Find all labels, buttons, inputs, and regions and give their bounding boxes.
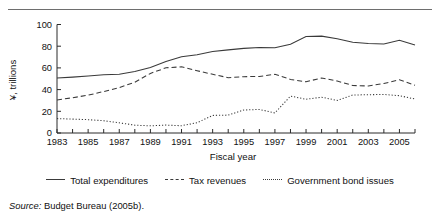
legend-item-government-bond-issues: Government bond issues: [263, 175, 394, 186]
x-tick-label: 1987: [109, 137, 130, 147]
y-tick-label: 40: [42, 85, 52, 95]
x-tick-label: 1993: [202, 137, 223, 147]
series-line-total-expenditures: [57, 36, 415, 78]
x-axis-tick-labels: 1983198519871989199119931995199719992001…: [47, 137, 410, 147]
series-line-government-bond-issues: [57, 94, 415, 125]
x-tick-label: 1989: [140, 137, 161, 147]
x-axis-title: Fiscal year: [210, 151, 257, 162]
figure-container: 020406080100 198319851987198919911993199…: [0, 0, 440, 223]
x-tick-label: 1997: [265, 137, 286, 147]
axis-group: 020406080100 198319851987198919911993199…: [36, 20, 415, 147]
y-tick-label: 100: [36, 20, 52, 30]
line-chart-svg: 020406080100 198319851987198919911993199…: [0, 0, 440, 170]
legend-label-tax-revenues: Tax revenues: [189, 175, 246, 186]
legend-label-government-bond-issues: Government bond issues: [287, 175, 394, 186]
legend-swatch-dashed-icon: [165, 179, 184, 182]
x-tick-label: 2003: [358, 137, 379, 147]
legend-item-tax-revenues: Tax revenues: [165, 175, 246, 186]
legend-swatch-dotted-icon: [263, 179, 282, 182]
x-tick-label: 1995: [233, 137, 254, 147]
data-series-group: [57, 36, 415, 126]
x-tick-label: 2001: [327, 137, 348, 147]
y-axis-tick-labels: 020406080100: [36, 20, 52, 138]
y-axis-title: ¥, trillions: [7, 60, 18, 102]
x-axis-ticks: [57, 129, 415, 133]
legend-swatch-solid-icon: [46, 179, 65, 182]
source-label: Source:: [9, 200, 41, 211]
y-axis-ticks: [57, 25, 61, 134]
y-tick-label: 60: [42, 63, 52, 73]
legend-label-total-expenditures: Total expenditures: [70, 175, 148, 186]
source-value: Budget Bureau (2005b).: [41, 200, 144, 211]
y-tick-label: 20: [42, 107, 52, 117]
x-tick-label: 2005: [389, 137, 410, 147]
x-tick-label: 1991: [171, 137, 192, 147]
legend-item-total-expenditures: Total expenditures: [46, 175, 148, 186]
x-tick-label: 1999: [296, 137, 317, 147]
chart-legend: Total expenditures Tax revenues Governme…: [0, 170, 440, 190]
x-tick-label: 1985: [78, 137, 99, 147]
y-tick-label: 80: [42, 42, 52, 52]
source-note: Source: Budget Bureau (2005b).: [9, 200, 144, 211]
x-tick-label: 1983: [47, 137, 68, 147]
